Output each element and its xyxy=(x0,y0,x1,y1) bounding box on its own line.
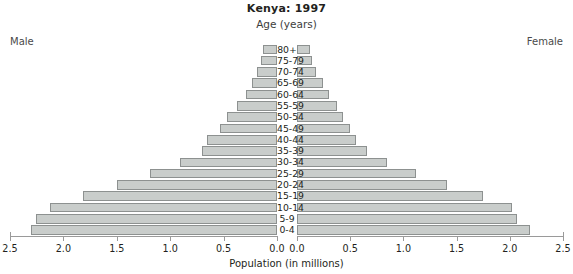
male-bar xyxy=(263,45,277,55)
pyramid-row: 45-49 xyxy=(0,123,573,134)
x-tick-male xyxy=(117,236,118,241)
male-bar xyxy=(227,112,277,122)
male-bar xyxy=(207,135,277,145)
pyramid-row: 35-39 xyxy=(0,146,573,157)
x-tick-male xyxy=(170,236,171,241)
x-tick-label-female: 1.5 xyxy=(449,243,464,254)
female-bar xyxy=(297,225,530,235)
age-group-label: 50-54 xyxy=(277,111,297,123)
female-bar xyxy=(297,203,512,213)
female-bar xyxy=(297,124,350,134)
x-tick-label-male: 0.5 xyxy=(216,243,231,254)
male-bar xyxy=(246,90,277,100)
male-bar xyxy=(237,101,277,111)
x-axis-group: Population (in millions) 0.00.00.50.51.0… xyxy=(0,236,573,274)
chart-title: Kenya: 1997 xyxy=(0,2,573,15)
age-group-label: 65-69 xyxy=(277,77,297,89)
pyramid-row: 5-9 xyxy=(0,213,573,224)
x-axis-title: Population (in millions) xyxy=(0,258,573,269)
age-group-label: 10-14 xyxy=(277,202,297,214)
x-tick-female xyxy=(457,236,458,241)
plot-area: 80+75-7970-7465-6960-6455-5950-5445-4940… xyxy=(0,44,573,236)
age-group-label: 40-44 xyxy=(277,134,297,146)
male-bar xyxy=(220,124,277,134)
axis-end-cap xyxy=(10,232,11,237)
pyramid-row: 0-4 xyxy=(0,225,573,236)
x-tick-female xyxy=(297,236,298,241)
female-bar xyxy=(297,191,483,201)
age-group-label: 60-64 xyxy=(277,89,297,101)
age-group-label: 30-34 xyxy=(277,156,297,168)
male-bar xyxy=(36,214,277,224)
male-bar xyxy=(202,146,277,156)
female-bar xyxy=(297,158,387,168)
x-tick-male xyxy=(63,236,64,241)
chart-subtitle: Age (years) xyxy=(0,18,573,30)
x-tick-female xyxy=(403,236,404,241)
female-bar xyxy=(297,135,356,145)
pyramid-row: 80+ xyxy=(0,44,573,55)
x-axis-line-female xyxy=(297,236,563,237)
pyramid-row: 60-64 xyxy=(0,89,573,100)
age-group-label: 75-79 xyxy=(277,55,297,67)
age-group-label: 20-24 xyxy=(277,179,297,191)
pyramid-row: 20-24 xyxy=(0,180,573,191)
female-bar xyxy=(297,214,517,224)
female-bar xyxy=(297,169,416,179)
x-tick-label-female: 2.0 xyxy=(502,243,517,254)
x-tick-label-male: 1.0 xyxy=(163,243,178,254)
male-bar xyxy=(83,191,277,201)
x-tick-female xyxy=(510,236,511,241)
age-group-label: 0-4 xyxy=(277,224,297,236)
x-tick-label-female: 2.5 xyxy=(555,243,570,254)
male-bar xyxy=(252,78,277,88)
age-group-label: 5-9 xyxy=(277,213,297,225)
pyramid-row: 25-29 xyxy=(0,168,573,179)
pyramid-row: 55-59 xyxy=(0,100,573,111)
x-tick-male xyxy=(277,236,278,241)
male-bar xyxy=(180,158,277,168)
age-group-label: 35-39 xyxy=(277,145,297,157)
male-bar xyxy=(150,169,277,179)
x-tick-label-male: 0.0 xyxy=(269,243,284,254)
axis-end-cap xyxy=(563,232,564,237)
x-tick-label-male: 2.0 xyxy=(56,243,71,254)
x-axis-line-male xyxy=(10,236,277,237)
pyramid-row: 65-69 xyxy=(0,78,573,89)
age-group-label: 70-74 xyxy=(277,66,297,78)
x-tick-label-female: 0.5 xyxy=(343,243,358,254)
male-bar xyxy=(50,203,277,213)
pyramid-row: 50-54 xyxy=(0,112,573,123)
pyramid-row: 30-34 xyxy=(0,157,573,168)
x-tick-label-female: 1.0 xyxy=(396,243,411,254)
x-tick-male xyxy=(224,236,225,241)
pyramid-row: 40-44 xyxy=(0,134,573,145)
pyramid-row: 10-14 xyxy=(0,202,573,213)
pyramid-row: 15-19 xyxy=(0,191,573,202)
female-bar xyxy=(297,45,310,55)
x-tick-female xyxy=(350,236,351,241)
male-bar xyxy=(257,67,277,77)
x-tick-label-male: 1.5 xyxy=(109,243,124,254)
x-tick-label-male: 2.5 xyxy=(2,243,17,254)
age-group-label: 80+ xyxy=(277,44,297,56)
pyramid-row: 70-74 xyxy=(0,67,573,78)
male-bar xyxy=(117,180,277,190)
age-group-label: 15-19 xyxy=(277,190,297,202)
age-group-label: 55-59 xyxy=(277,100,297,112)
age-group-label: 25-29 xyxy=(277,168,297,180)
male-bar xyxy=(261,56,277,66)
x-tick-label-female: 0.0 xyxy=(289,243,304,254)
age-group-label: 45-49 xyxy=(277,123,297,135)
female-bar xyxy=(297,180,447,190)
population-pyramid-chart: Kenya: 1997 Age (years) Male Female 80+7… xyxy=(0,0,573,274)
pyramid-row: 75-79 xyxy=(0,55,573,66)
female-bar xyxy=(297,146,367,156)
male-bar xyxy=(31,225,277,235)
